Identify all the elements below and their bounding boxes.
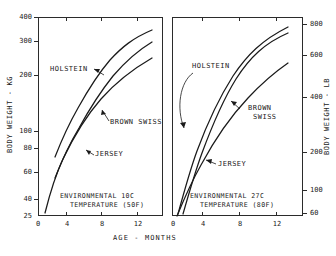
x-axis-title: AGE - MONTHS bbox=[113, 235, 177, 242]
leader-holstein-right bbox=[180, 73, 193, 128]
arrowhead-holstein-right bbox=[180, 122, 186, 128]
y-axis-title-kg: BODY WEIGHT - KG bbox=[7, 76, 14, 154]
series-label-brown-swiss-right-line2: SWISS bbox=[253, 113, 277, 121]
y-axis-title-lb: BODY WEIGHT - LB bbox=[324, 78, 331, 156]
series-label-brown-swiss-right-line1: BROWN bbox=[248, 104, 272, 112]
condition-right-line2: TEMPERATURE (80F) bbox=[190, 201, 274, 210]
series-label-holstein-right: HOLSTEIN bbox=[192, 62, 230, 70]
figure-growth-curves: 400 300 200 100 80 60 40 25 0 4 8 12 bbox=[0, 0, 336, 256]
condition-right-line1: ENVIRONMENTAL 27C bbox=[190, 192, 264, 200]
curve-brown-swiss-right bbox=[183, 33, 288, 214]
series-label-jersey-right: JERSEY bbox=[218, 160, 246, 168]
condition-label-right: ENVIRONMENTAL 27C TEMPERATURE (80F) bbox=[190, 192, 274, 209]
arrowhead-jersey-right bbox=[206, 159, 212, 164]
curves-right bbox=[0, 0, 336, 256]
